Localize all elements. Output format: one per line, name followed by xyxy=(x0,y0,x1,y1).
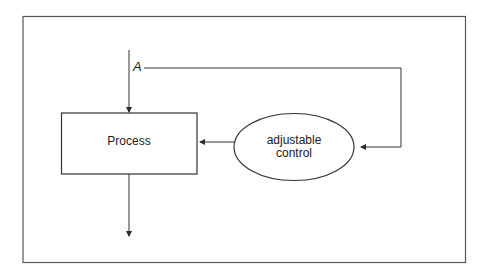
process-label: Process xyxy=(90,135,168,148)
diagram-canvas xyxy=(0,0,489,279)
control-label-line2: control xyxy=(254,147,334,160)
input-label-a: A xyxy=(133,60,143,73)
